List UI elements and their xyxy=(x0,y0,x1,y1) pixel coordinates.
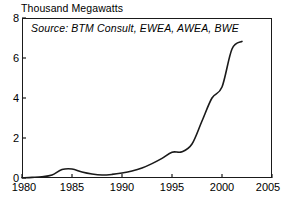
data-line-wind-capacity xyxy=(22,41,242,177)
axis-tick-marks xyxy=(22,18,272,178)
wind-capacity-chart: Thousand Megawatts Source: BTM Consult, … xyxy=(0,0,285,202)
plot-canvas xyxy=(0,0,285,202)
